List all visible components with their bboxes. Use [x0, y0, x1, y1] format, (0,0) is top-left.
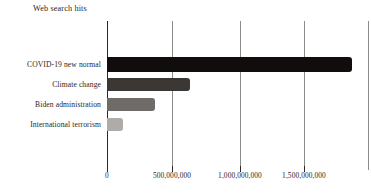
x-tick-label-1500m: 1,500,000,000 [282, 171, 326, 180]
bar-climate-change [107, 78, 190, 91]
chart-title: Web search hits [33, 4, 87, 13]
bar-row [107, 95, 371, 115]
category-label: Biden administration [0, 95, 101, 115]
category-label: COVID-19 new normal [0, 55, 101, 75]
bar-biden-administration [107, 98, 155, 111]
bar-row [107, 55, 371, 75]
bar-series [107, 55, 371, 135]
bar-row [107, 115, 371, 135]
bar-covid-19-new-normal [107, 57, 352, 72]
bar-chart: Web search hits COVID-19 new normal Clim… [0, 0, 371, 194]
bar-row [107, 75, 371, 95]
x-tick-label-1000m: 1,000,000,000 [218, 171, 262, 180]
x-tick-label-0: 0 [105, 171, 109, 180]
bar-international-terrorism [107, 118, 123, 131]
category-label: International terrorism [0, 115, 101, 135]
category-axis-labels: COVID-19 new normal Climate change Biden… [0, 55, 101, 135]
x-tick-label-500m: 500,000,000 [153, 171, 191, 180]
category-label: Climate change [0, 75, 101, 95]
